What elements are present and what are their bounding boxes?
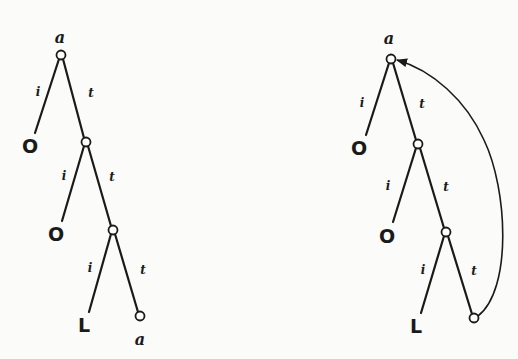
- right-l3-l-leaf: L: [410, 317, 422, 336]
- left-leaf-a-label: a: [135, 332, 145, 348]
- left-l3-i-label: i: [88, 262, 93, 274]
- right-l2-o-leaf: O: [379, 227, 395, 246]
- left-edge-l1-t: [88, 146, 111, 226]
- right-root-label: a: [384, 31, 394, 47]
- left-l2-o-leaf: O: [48, 225, 64, 244]
- left-l3-l-leaf: L: [78, 316, 90, 335]
- right-leaf-node: [470, 314, 479, 323]
- right-l3-t-label: t: [471, 265, 477, 277]
- left-l2-t-label: t: [109, 171, 115, 183]
- right-l1-o-leaf: O: [351, 139, 367, 158]
- right-l2-t-label: t: [443, 181, 449, 193]
- left-l1-o-leaf: O: [22, 137, 38, 156]
- tree-diagram: [0, 0, 518, 359]
- back-pointer-edge: [397, 60, 503, 316]
- right-l1-t-label: t: [419, 98, 425, 110]
- right-l2-i-label: i: [386, 180, 391, 192]
- left-l2-i-label: i: [62, 170, 67, 182]
- right-root-node: [387, 55, 396, 64]
- left-root-node: [57, 51, 66, 60]
- right-level1-node: [414, 140, 423, 149]
- left-root-label: a: [55, 30, 65, 46]
- left-level1-node: [82, 138, 91, 147]
- right-edge-l1-t: [420, 148, 444, 228]
- left-level2-node: [109, 226, 118, 235]
- left-l3-t-label: t: [140, 264, 146, 276]
- left-edge-l2-t: [115, 234, 138, 312]
- right-l1-i-label: i: [360, 97, 365, 109]
- left-edge-l1-i: [62, 146, 84, 221]
- right-edge-root-t: [393, 63, 416, 140]
- left-leaf-node: [136, 312, 145, 321]
- right-edge-root-i: [366, 63, 389, 135]
- left-edge-root-t: [63, 59, 84, 138]
- right-edge-l1-i: [393, 148, 416, 222]
- right-l3-i-label: i: [421, 264, 426, 276]
- right-level2-node: [442, 228, 451, 237]
- left-l1-i-label: i: [36, 86, 41, 98]
- right-edge-l2-t: [448, 236, 472, 314]
- left-l1-t-label: t: [88, 87, 94, 99]
